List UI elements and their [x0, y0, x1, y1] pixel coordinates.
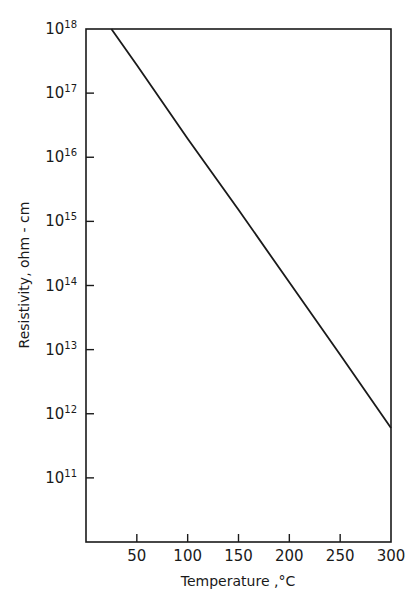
- resistivity-line: [111, 29, 391, 428]
- y-tick-label: 1017: [45, 83, 77, 102]
- x-tick-label: 100: [173, 547, 202, 565]
- y-tick-label: 1018: [45, 19, 77, 38]
- y-axis-title: Resistivity, ohm - cm: [16, 202, 32, 349]
- resistivity-chart: 10111012101310141015101610171018 5010015…: [0, 0, 416, 603]
- y-tick-label: 1016: [45, 147, 77, 166]
- y-tick-label: 1015: [45, 211, 77, 230]
- y-tick-label: 1011: [45, 468, 77, 487]
- x-tick-label: 250: [326, 547, 355, 565]
- x-axis-title: Temperature ,°C: [180, 573, 296, 589]
- x-tick-label: 300: [377, 547, 406, 565]
- plot-border: [86, 29, 391, 542]
- data-series: [111, 29, 391, 428]
- plot-frame: [86, 29, 391, 542]
- y-tick-label: 1014: [45, 276, 77, 295]
- y-tick-label: 1012: [45, 404, 77, 423]
- y-tick-label: 1013: [45, 340, 77, 359]
- x-tick-label: 200: [275, 547, 304, 565]
- x-tick-label: 50: [127, 547, 146, 565]
- x-axis-ticks: 50100150200250300: [127, 534, 405, 565]
- x-tick-label: 150: [224, 547, 253, 565]
